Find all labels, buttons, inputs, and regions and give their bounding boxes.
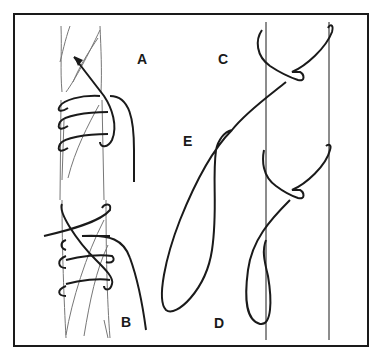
- label-d: D: [214, 316, 224, 330]
- knot-B-wraps: [44, 204, 146, 330]
- knot-diagram: [0, 0, 380, 356]
- label-a: A: [137, 52, 147, 66]
- label-b: B: [121, 315, 131, 329]
- label-e: E: [183, 134, 192, 148]
- knot-D: [246, 145, 330, 324]
- knot-A-wraps: [59, 57, 134, 182]
- label-c: C: [218, 52, 228, 66]
